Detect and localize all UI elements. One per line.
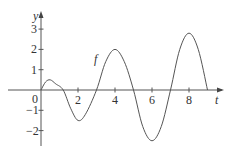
x-tick-label: 8	[186, 93, 192, 107]
curve-label: f	[94, 52, 99, 66]
curve-f	[41, 33, 208, 141]
y-tick-label: 2	[31, 42, 37, 56]
y-tick-label: 3	[31, 22, 37, 36]
origin-label: 0	[32, 92, 38, 106]
y-axis	[39, 11, 44, 146]
y-axis-label: y	[32, 9, 39, 23]
y-tick-label: −2	[26, 124, 39, 138]
chart: 2468 −2−1123 y t f 0	[0, 0, 229, 151]
x-tick-label: 2	[75, 93, 81, 107]
x-axis-arrow-icon	[217, 88, 224, 93]
x-axis	[8, 88, 224, 93]
x-axis-label: t	[215, 93, 219, 107]
x-tick-label: 6	[149, 93, 155, 107]
y-tick-label: 1	[31, 63, 37, 77]
x-tick-label: 4	[112, 93, 118, 107]
y-axis-arrow-icon	[39, 11, 44, 18]
